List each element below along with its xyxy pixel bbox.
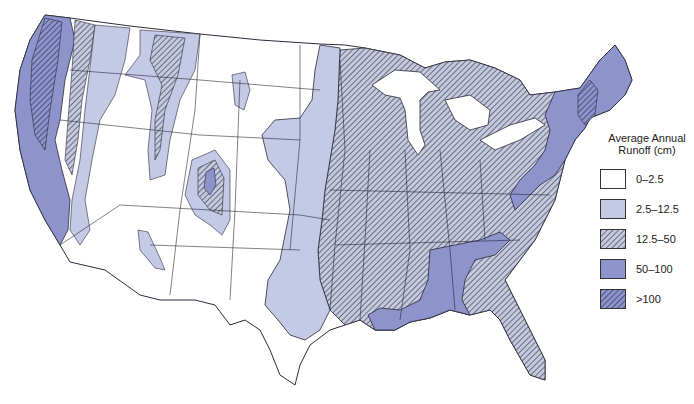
legend-label: 2.5–12.5 xyxy=(636,203,679,215)
swatch-hatched-light xyxy=(600,229,626,249)
legend-item-2.5-12.5: 2.5–12.5 xyxy=(600,194,694,224)
legend-label: >100 xyxy=(636,293,661,305)
swatch-white xyxy=(600,169,626,189)
legend-title-line2: Runoff (cm) xyxy=(600,144,694,156)
legend-item-gt100: >100 xyxy=(600,284,694,314)
legend-title-line1: Average Annual xyxy=(600,132,694,144)
legend-item-0-2.5: 0–2.5 xyxy=(600,164,694,194)
legend-item-12.5-50: 12.5–50 xyxy=(600,224,694,254)
swatch-light xyxy=(600,199,626,219)
swatch-hatched-dark xyxy=(600,289,626,309)
legend-label: 12.5–50 xyxy=(636,233,676,245)
runoff-map xyxy=(0,0,694,404)
legend-title: Average Annual Runoff (cm) xyxy=(600,132,694,156)
legend: Average Annual Runoff (cm) 0–2.5 2.5–12.… xyxy=(600,132,694,314)
legend-label: 0–2.5 xyxy=(636,173,664,185)
legend-item-50-100: 50–100 xyxy=(600,254,694,284)
legend-label: 50–100 xyxy=(636,263,673,275)
swatch-medium xyxy=(600,259,626,279)
